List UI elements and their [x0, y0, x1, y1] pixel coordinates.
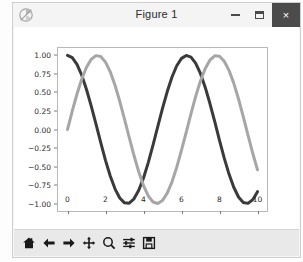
screenshot-root: Figure 1 × 1.000.750.500.250.00−0.25−0.5…	[0, 0, 303, 262]
y-tick-mark	[54, 148, 57, 149]
y-tick-mark	[54, 129, 57, 130]
y-tick-mark	[54, 73, 57, 74]
y-tick-label: 0.50	[11, 88, 51, 97]
y-tick-label: −0.75	[11, 181, 51, 190]
plot-axes	[57, 47, 268, 212]
y-tick-label: 0.75	[11, 69, 51, 78]
figure-canvas[interactable]: 1.000.750.500.250.00−0.25−0.50−0.75−1.00…	[14, 27, 299, 232]
maximize-button[interactable]	[246, 3, 272, 27]
y-tick-mark	[54, 55, 57, 56]
move-cross-icon[interactable]	[80, 234, 98, 252]
plot-lines	[58, 48, 267, 211]
x-tick-mark	[220, 211, 221, 214]
x-tick-label: 10	[253, 195, 263, 204]
y-tick-mark	[54, 166, 57, 167]
x-tick-label: 0	[65, 195, 70, 204]
x-tick-mark	[144, 211, 145, 214]
home-icon[interactable]	[20, 234, 38, 252]
y-tick-mark	[54, 110, 57, 111]
configure-subplots-icon[interactable]	[120, 234, 138, 252]
y-tick-label: 0.00	[11, 125, 51, 134]
y-tick-mark	[54, 185, 57, 186]
x-tick-label: 4	[141, 195, 146, 204]
y-tick-label: 0.25	[11, 106, 51, 115]
maximize-icon	[255, 11, 264, 19]
close-button[interactable]: ×	[272, 3, 300, 27]
y-tick-mark	[54, 92, 57, 93]
x-tick-mark	[258, 211, 259, 214]
x-tick-mark	[106, 211, 107, 214]
y-tick-label: −1.00	[11, 199, 51, 208]
minimize-icon	[231, 14, 240, 16]
y-tick-label: −0.50	[11, 162, 51, 171]
save-floppy-icon[interactable]	[140, 234, 158, 252]
x-tick-label: 8	[217, 195, 222, 204]
navigation-toolbar	[14, 229, 299, 256]
magnifier-icon[interactable]	[100, 234, 118, 252]
figure-window: Figure 1 × 1.000.750.500.250.00−0.25−0.5…	[12, 2, 301, 258]
y-tick-mark	[54, 203, 57, 204]
arrow-left-icon[interactable]	[40, 234, 58, 252]
series-line	[68, 55, 258, 203]
x-tick-label: 6	[179, 195, 184, 204]
close-icon: ×	[283, 10, 289, 21]
y-tick-label: −0.25	[11, 144, 51, 153]
x-tick-mark	[182, 211, 183, 214]
window-titlebar: Figure 1 ×	[13, 3, 300, 28]
y-tick-label: 1.00	[11, 51, 51, 60]
arrow-right-icon[interactable]	[60, 234, 78, 252]
x-tick-mark	[68, 211, 69, 214]
minimize-button[interactable]	[222, 3, 248, 27]
x-tick-label: 2	[103, 195, 108, 204]
